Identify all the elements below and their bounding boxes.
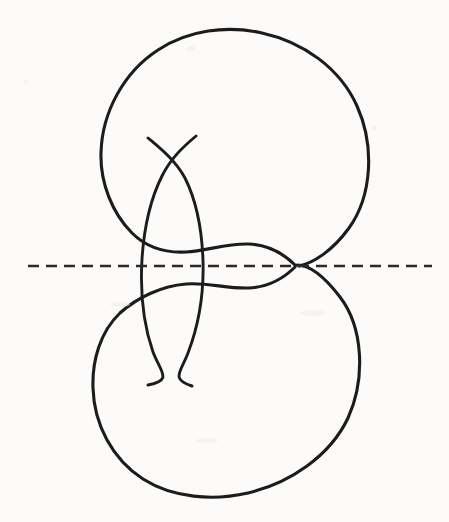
figure-canvas (0, 0, 449, 522)
main-curve-lower-loop (93, 265, 360, 497)
curve-diagram-svg (0, 0, 449, 522)
vertical-lens-left-arc (141, 136, 196, 385)
main-curve-upper-loop (101, 29, 369, 266)
vertical-lens-right-arc (148, 138, 203, 386)
